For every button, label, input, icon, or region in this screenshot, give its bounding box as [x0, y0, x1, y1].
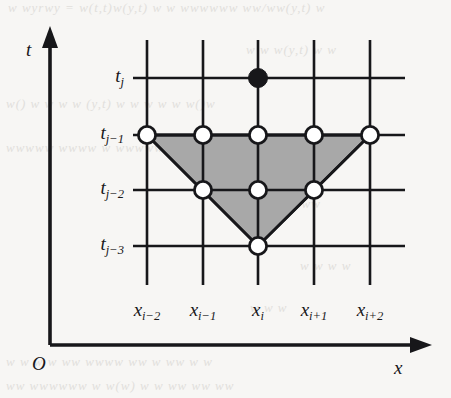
t-tick-label-tj-2: tj−2: [52, 178, 124, 200]
t-tick-subscript: j: [121, 75, 124, 89]
x-tick-subscript: i+2: [365, 309, 383, 323]
x-tick-subscript: i−2: [142, 309, 160, 323]
x-axis-arrowhead: [410, 337, 432, 353]
x-tick-subscript: i: [260, 309, 263, 323]
t-tick-label-tj-1: tj−1: [52, 123, 124, 145]
node-open-xi-tj-1: [249, 126, 266, 143]
x-tick-label-xi+2: xi+2: [334, 300, 406, 322]
figure-container: w wyrwy = w(t,t)w(y,t) w w wwwwww ww/ww(…: [0, 0, 451, 398]
node-open-xi-1-tj-1: [194, 126, 211, 143]
x-tick-base: x: [301, 299, 309, 320]
t-tick-subscript: j−2: [106, 187, 124, 201]
x-axis-label: x: [394, 358, 402, 377]
node-open-xi+1-tj-1: [305, 126, 322, 143]
node-open-xi+1-tj-2: [305, 181, 322, 198]
t-axis-arrowhead: [42, 26, 58, 48]
t-tick-subscript: j−1: [106, 132, 124, 146]
stencil-nodes-row-t-j-3: [249, 237, 266, 254]
node-open-xi-tj-3: [249, 237, 266, 254]
x-tick-base: x: [190, 299, 198, 320]
t-tick-label-tj-3: tj−3: [52, 234, 124, 256]
node-open-xi-tj-2: [249, 181, 266, 198]
node-open-xi-1-tj-2: [194, 181, 211, 198]
x-tick-subscript: i+1: [309, 309, 327, 323]
origin-label: O: [32, 354, 46, 373]
node-open-xi+2-tj-1: [361, 126, 378, 143]
t-tick-subscript: j−3: [106, 243, 124, 257]
t-axis-label: t: [26, 40, 31, 59]
x-tick-base: x: [357, 299, 365, 320]
x-tick-subscript: i−1: [198, 309, 216, 323]
node-filled-xi-tj: [249, 69, 268, 88]
x-tick-base: x: [134, 299, 142, 320]
x-axis: [50, 337, 432, 353]
t-tick-label-tj: tj: [62, 66, 124, 88]
node-open-xi-2-tj-1: [138, 126, 155, 143]
